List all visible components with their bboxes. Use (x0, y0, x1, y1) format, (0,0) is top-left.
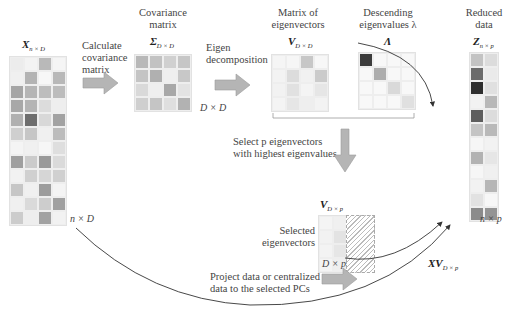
matrix-cell (272, 55, 286, 69)
matrix-cell (52, 85, 66, 99)
matrix-cell (24, 169, 38, 183)
matrix-cell (359, 95, 373, 109)
xv-subscript: D × p (443, 264, 459, 271)
matrix-cell (286, 83, 300, 97)
lambda-label: Λ (384, 35, 391, 47)
select-eigenvectors-text: Select p eigenvectors with highest eigen… (233, 136, 337, 160)
reduced-data-title: Reduced data (462, 7, 505, 31)
matrix-cell (484, 193, 498, 207)
matrix-cell (149, 55, 163, 69)
matrix-cell (470, 165, 484, 179)
matrix-cell (38, 169, 52, 183)
matrix-cell (149, 83, 163, 97)
matrix-cell (52, 169, 66, 183)
matrix-cell (24, 57, 38, 71)
matrix-cell (24, 71, 38, 85)
matrix-cell (484, 109, 498, 123)
matrix-cell (484, 151, 498, 165)
matrix-cell (163, 83, 177, 97)
selected-dimension-label: D × p (322, 258, 346, 269)
matrix-cell (484, 123, 498, 137)
matrix-cell (387, 81, 401, 95)
project-data-text: Project data or centralized data to the … (210, 271, 320, 295)
matrix-cell (149, 97, 163, 111)
matrix-cell (319, 216, 333, 230)
matrix-cell (38, 85, 52, 99)
matrix-cell (10, 127, 24, 141)
matrix-cell (52, 57, 66, 71)
matrix-cell (52, 183, 66, 197)
matrix-cell (10, 141, 24, 155)
matrix-cell (135, 69, 149, 83)
matrix-cell (373, 67, 387, 81)
matrix-cell (135, 97, 149, 111)
matrix-cell (177, 69, 191, 83)
reduced-data-matrix (469, 52, 499, 222)
matrix-cell (10, 113, 24, 127)
matrix-cell (272, 69, 286, 83)
covariance-dimension-label: D × D (200, 102, 226, 113)
matrix-cell (387, 95, 401, 109)
matrix-cell (38, 183, 52, 197)
matrix-cell (484, 81, 498, 95)
matrix-cell (38, 57, 52, 71)
descending-eigenvalues-title: Descending eigenvalues λ (350, 7, 426, 31)
matrix-cell (177, 83, 191, 97)
matrix-cell (314, 83, 328, 97)
matrix-cell (52, 197, 66, 211)
matrix-cell (24, 127, 38, 141)
vp-matrix-label: VD × p (320, 198, 343, 212)
matrix-cell (177, 97, 191, 111)
matrix-cell (177, 55, 191, 69)
matrix-cell (314, 97, 328, 111)
matrix-cell (484, 53, 498, 67)
calculate-covariance-text: Calculate covariance matrix (82, 40, 127, 76)
matrix-cell (10, 197, 24, 211)
z-subscript: n × p (480, 42, 494, 49)
matrix-cell (24, 99, 38, 113)
matrix-cell (314, 55, 328, 69)
sigma-symbol: Σ (150, 35, 157, 47)
matrix-cell (38, 113, 52, 127)
matrix-cell (286, 69, 300, 83)
matrix-cell (373, 95, 387, 109)
matrix-cell (470, 137, 484, 151)
matrix-cell (470, 193, 484, 207)
matrix-cell (149, 69, 163, 83)
matrix-cell (10, 71, 24, 85)
matrix-cell (24, 197, 38, 211)
matrix-cell (470, 123, 484, 137)
v-matrix-label: VD × D (288, 35, 312, 49)
matrix-cell (333, 216, 347, 230)
matrix-cell (484, 165, 498, 179)
matrix-cell (10, 211, 24, 225)
matrix-cell (52, 99, 66, 113)
matrix-cell (484, 95, 498, 109)
matrix-cell (373, 53, 387, 67)
matrix-cell (359, 81, 373, 95)
arrow-right-icon-eigen (215, 74, 250, 96)
x-subscript: n × D (29, 45, 45, 52)
matrix-cell (470, 109, 484, 123)
matrix-cell (401, 53, 415, 67)
matrix-cell (401, 67, 415, 81)
matrix-cell (52, 141, 66, 155)
matrix-cell (286, 55, 300, 69)
matrix-cell (163, 55, 177, 69)
selected-eigenvectors-label: Selected eigenvectors (255, 225, 315, 249)
matrix-cell (300, 83, 314, 97)
eigenvalue-matrix (358, 52, 416, 110)
matrix-cell (401, 81, 415, 95)
matrix-cell (52, 71, 66, 85)
eigen-decomposition-text: Eigen decomposition (206, 42, 268, 66)
matrix-cell (24, 85, 38, 99)
matrix-cell (314, 69, 328, 83)
matrix-cell (38, 99, 52, 113)
matrix-cell (24, 155, 38, 169)
eigenvector-title: Matrix of eigenvectors (258, 7, 338, 31)
arrow-down-icon-select (334, 129, 356, 172)
matrix-cell (10, 57, 24, 71)
vp-subscript: D × p (327, 205, 343, 212)
sigma-label: ΣD × D (150, 35, 174, 49)
matrix-cell (300, 97, 314, 111)
